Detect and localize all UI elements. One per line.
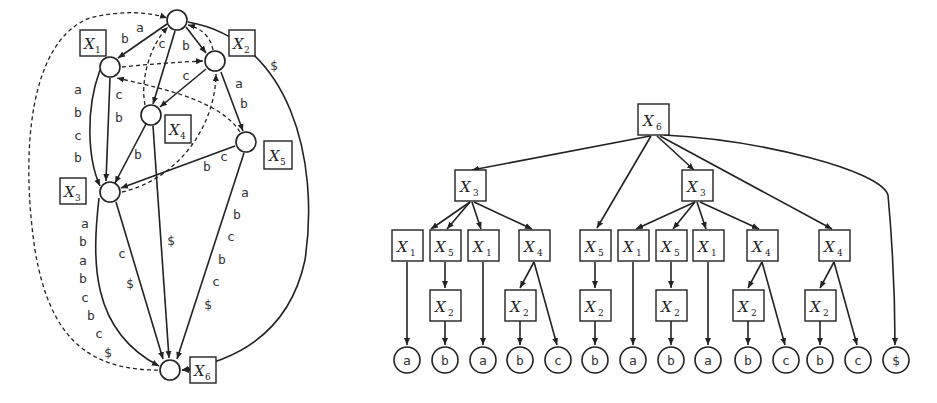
tree-node-l1: X 3: [682, 170, 713, 201]
tree-node-l3: X2: [805, 290, 836, 321]
svg-text:5: 5: [598, 248, 604, 258]
tree-leaf: a: [695, 347, 721, 373]
svg-text:a: a: [79, 253, 87, 268]
svg-text:c: c: [115, 87, 123, 102]
tree-leaf: b: [807, 347, 833, 373]
edge-x3-x6-inner: [116, 202, 163, 359]
svg-text:b: b: [516, 353, 524, 368]
tree-node-l1: X 3: [455, 170, 486, 201]
svg-text:a: a: [704, 353, 712, 368]
svg-text:b: b: [591, 353, 599, 368]
svg-text:c: c: [854, 353, 862, 368]
svg-text:4: 4: [180, 131, 186, 141]
tree-edge: [834, 262, 857, 345]
svg-text:b: b: [744, 353, 752, 368]
tree-node-l2: X5: [580, 230, 611, 261]
svg-text:$: $: [892, 353, 900, 368]
svg-text:1: 1: [711, 248, 717, 258]
svg-text:a: a: [241, 185, 249, 200]
svg-text:c: c: [95, 326, 103, 341]
svg-text:5: 5: [674, 248, 680, 258]
tree-edge: [534, 262, 557, 345]
graph-node-x6: [160, 360, 180, 380]
tree-node-l2: X1: [392, 230, 423, 261]
edge-x1-x3-inner: [106, 78, 110, 181]
box-label-x5: X 5: [264, 141, 292, 169]
tree-edge: [820, 262, 834, 288]
svg-text:X: X: [823, 238, 836, 256]
tree-leaf: b: [432, 347, 458, 373]
svg-text:b: b: [182, 38, 190, 53]
edge-x5-x6: [177, 153, 244, 359]
svg-text:X: X: [584, 298, 597, 316]
svg-text:X: X: [660, 298, 673, 316]
svg-text:c: c: [158, 36, 166, 51]
svg-text:a: a: [81, 216, 89, 231]
svg-text:a: a: [479, 353, 487, 368]
svg-text:2: 2: [244, 45, 250, 55]
graph-node-x1: [100, 57, 120, 77]
svg-text:b: b: [441, 353, 449, 368]
svg-text:c: c: [782, 353, 790, 368]
svg-text:3: 3: [473, 188, 479, 198]
tree-leaf: a: [470, 347, 496, 373]
tree-node-l2: X4: [519, 230, 550, 261]
svg-text:X: X: [737, 298, 750, 316]
svg-text:c: c: [74, 128, 82, 143]
svg-text:3: 3: [75, 193, 81, 203]
svg-text:b: b: [79, 271, 87, 286]
tree-edge: [657, 136, 694, 170]
svg-text:c: c: [554, 353, 562, 368]
right-tree: X 6 X 3 X 3 X1 X5 X1 X4 X5 X1 X5 X1 X4 X…: [392, 104, 909, 373]
graph-node-x2: [205, 51, 225, 71]
tree-edge: [636, 202, 695, 229]
svg-text:5: 5: [448, 248, 454, 258]
svg-text:1: 1: [486, 248, 492, 258]
tree-edge: [697, 202, 706, 229]
svg-text:X: X: [660, 238, 673, 256]
tree-edge: [748, 262, 762, 288]
tree-leaf: $: [883, 347, 909, 373]
svg-text:X: X: [642, 112, 655, 130]
svg-text:X: X: [809, 298, 822, 316]
svg-text:c: c: [227, 229, 235, 244]
box-label-x2: X 2: [229, 30, 255, 56]
tree-node-l3: X2: [733, 290, 764, 321]
svg-text:b: b: [218, 252, 226, 267]
svg-text:b: b: [74, 150, 82, 165]
svg-text:6: 6: [656, 122, 662, 132]
graph-node-root: [167, 10, 187, 30]
svg-text:6: 6: [205, 372, 211, 382]
tree-leaf: a: [620, 347, 646, 373]
svg-text:2: 2: [598, 308, 604, 318]
svg-text:X: X: [434, 238, 447, 256]
tree-leaf: b: [658, 347, 684, 373]
tree-node-l3: X2: [505, 290, 536, 321]
svg-text:c: c: [220, 149, 228, 164]
dashed-link: [29, 13, 167, 370]
tree-node-l2: X5: [430, 230, 461, 261]
svg-text:c: c: [212, 274, 220, 289]
tree-edge: [472, 202, 481, 229]
svg-text:c: c: [81, 290, 89, 305]
tree-node-l2: X1: [618, 230, 649, 261]
svg-text:b: b: [233, 207, 241, 222]
tree-edge: [472, 136, 650, 170]
box-label-x1: X 1: [80, 30, 106, 56]
svg-text:1: 1: [636, 248, 642, 258]
svg-text:c: c: [118, 246, 126, 261]
tree-node-l2: X1: [468, 230, 499, 261]
graph-node-x5: [236, 132, 256, 152]
svg-text:$: $: [167, 233, 175, 248]
tree-edge: [673, 202, 695, 229]
svg-text:X: X: [396, 238, 409, 256]
svg-text:2: 2: [448, 308, 454, 318]
svg-text:4: 4: [765, 248, 771, 258]
tree-leaf: c: [845, 347, 871, 373]
svg-text:X: X: [523, 238, 536, 256]
dashed-link: [122, 61, 203, 67]
box-label-x3: X 3: [60, 178, 86, 204]
svg-text:1: 1: [95, 45, 101, 55]
svg-text:b: b: [74, 105, 82, 120]
svg-text:a: a: [629, 353, 637, 368]
